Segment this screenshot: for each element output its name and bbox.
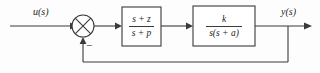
plant-denominator: s(s + a)	[206, 26, 242, 39]
plant-transfer-function: k s(s + a)	[193, 6, 255, 46]
output-signal-label: y(s)	[281, 7, 296, 17]
plant-numerator: k	[219, 14, 229, 26]
input-signal-label: u(s)	[33, 7, 49, 17]
compensator-transfer-function: s + z s + p	[122, 7, 161, 46]
error-arrowhead-icon	[115, 23, 122, 30]
feedback-minus-sign-label: −	[86, 40, 92, 51]
compensator-numerator: s + z	[129, 14, 154, 26]
output-arrowhead-icon	[304, 23, 312, 30]
intermediate-arrowhead-icon	[186, 23, 193, 30]
block-diagram-container: u(s) y(s) − s + z s + p k s(s + a)	[0, 0, 320, 73]
compensator-denominator: s + p	[129, 26, 155, 39]
